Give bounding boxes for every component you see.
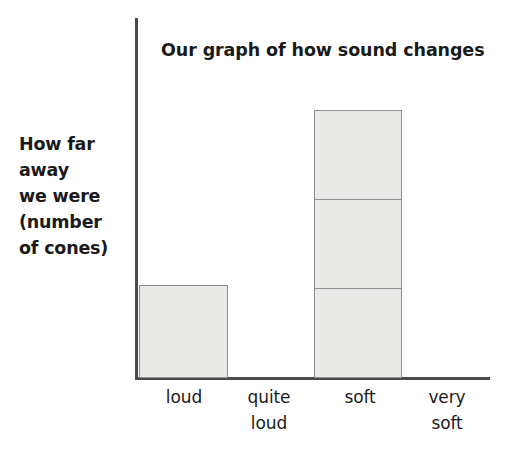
plot-area (0, 0, 511, 449)
bar-soft-segment-3 (315, 111, 401, 200)
bar-soft (314, 110, 402, 378)
bar-soft-segment-1 (315, 289, 401, 377)
x-tick-label-loud-line-1: loud (140, 384, 228, 410)
x-tick-label-very-soft-line-1: very (404, 384, 490, 410)
x-tick-label-soft-line-1: soft (316, 384, 404, 410)
bar-soft-segment-2 (315, 200, 401, 289)
x-tick-label-very-soft-line-2: soft (404, 410, 490, 436)
sound-changes-bar-chart: Our graph of how sound changes How far a… (0, 0, 511, 449)
x-tick-label-very-soft: very soft (404, 384, 490, 436)
x-tick-label-soft: soft (316, 384, 404, 410)
bar-loud (139, 285, 228, 378)
bar-loud-segment-1 (140, 286, 227, 377)
x-tick-label-loud: loud (140, 384, 228, 410)
x-tick-label-quite-loud-line-2: loud (226, 410, 312, 436)
x-tick-label-quite-loud: quite loud (226, 384, 312, 436)
x-tick-label-quite-loud-line-1: quite (226, 384, 312, 410)
